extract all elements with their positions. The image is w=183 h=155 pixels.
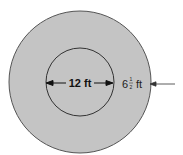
edge-pointer-arrow — [150, 82, 175, 86]
inner-diameter-label: 12 ft — [69, 77, 92, 89]
concentric-circles-diagram: 12 ft 6 1 2 ft — [0, 0, 183, 155]
svg-text:6: 6 — [122, 78, 128, 90]
svg-text:1: 1 — [130, 76, 133, 82]
svg-text:ft: ft — [136, 78, 142, 90]
svg-text:2: 2 — [130, 84, 133, 90]
ring-width-label: 6 1 2 ft — [122, 76, 142, 90]
